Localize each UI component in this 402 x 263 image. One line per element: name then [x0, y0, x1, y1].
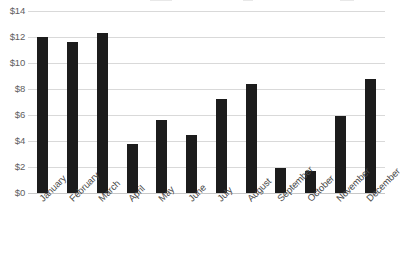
top-edge-artifact: [0, 0, 389, 3]
y-axis-tick-label: $6: [0, 110, 25, 120]
bar-series: [28, 11, 385, 193]
plot-area: [28, 11, 385, 193]
bar: [37, 37, 48, 193]
y-axis-tick-label: $8: [0, 84, 25, 94]
bar: [156, 120, 167, 193]
y-axis-tick-label: $4: [0, 136, 25, 146]
y-axis-tick-label: $2: [0, 162, 25, 172]
bar: [186, 135, 197, 194]
bar: [97, 33, 108, 193]
y-axis-tick-label: $14: [0, 6, 25, 16]
x-axis-tick-labels: JanuaryFebruaryMarchAprilMayJuneJulyAugu…: [28, 196, 385, 263]
y-axis-tick-label: $12: [0, 32, 25, 42]
bar: [246, 84, 257, 193]
bar: [335, 116, 346, 193]
bar: [216, 99, 227, 193]
y-axis-tick-label: $10: [0, 58, 25, 68]
bar: [67, 42, 78, 193]
y-axis-tick-label: $0: [0, 188, 25, 198]
y-axis-tick-labels: $14$12$10$8$6$4$2$0: [0, 0, 26, 263]
